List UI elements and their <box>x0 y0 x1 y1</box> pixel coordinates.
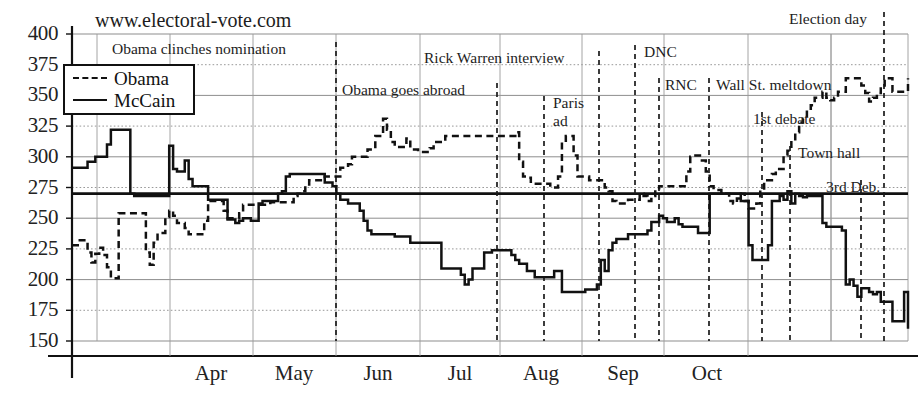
event-label: 1st debate <box>753 110 815 128</box>
y-axis-tick-label: 375 <box>2 52 58 77</box>
legend-label-mccain: McCain <box>114 91 175 110</box>
x-axis-tick-label-sep: Sep <box>578 361 668 386</box>
x-axis-tick-label-jun: Jun <box>333 361 423 386</box>
event-label: Election day <box>789 10 867 28</box>
y-axis-tick-label: 200 <box>2 267 58 292</box>
event-label: Town hall <box>798 144 860 162</box>
event-label: Paris ad <box>553 94 595 130</box>
event-label: RNC <box>665 76 697 94</box>
y-axis-tick-label: 300 <box>2 144 58 169</box>
legend-key-obama <box>73 72 107 84</box>
y-axis-tick-label: 350 <box>2 82 58 107</box>
x-axis-tick-label-may: May <box>249 361 339 386</box>
event-label: Obama clinches nomination <box>112 40 286 58</box>
x-axis-tick-label-oct: Oct <box>662 361 752 386</box>
y-axis-tick-label: 225 <box>2 236 58 261</box>
x-axis-tick-label-jul: Jul <box>415 361 505 386</box>
y-axis-tick-label: 150 <box>2 328 58 353</box>
legend-label-obama: Obama <box>114 69 169 88</box>
chart-legend: Obama McCain <box>63 64 195 115</box>
legend-key-mccain <box>73 94 107 106</box>
y-axis-tick-label: 250 <box>2 205 58 230</box>
event-label: Wall St. meltdown <box>716 76 831 94</box>
event-label: Rick Warren interview <box>424 49 565 67</box>
site-title: www.electoral-vote.com <box>95 9 291 32</box>
y-axis-tick-label: 275 <box>2 175 58 200</box>
y-axis-tick-label: 400 <box>2 21 58 46</box>
series-line-obama <box>72 78 908 278</box>
x-axis-tick-label-apr: Apr <box>166 361 256 386</box>
y-axis-tick-label: 325 <box>2 113 58 138</box>
x-axis-tick-label-aug: Aug <box>496 361 586 386</box>
y-axis-tick-label: 175 <box>2 297 58 322</box>
electoral-vote-chart: www.electoral-vote.com Obama McCain 1501… <box>0 0 922 412</box>
event-label: DNC <box>644 43 677 61</box>
event-label: Obama goes abroad <box>342 81 465 99</box>
event-label: 3rd Deb. <box>826 178 880 196</box>
